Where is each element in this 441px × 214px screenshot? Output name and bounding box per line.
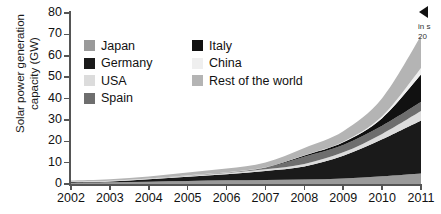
legend-label: Italy <box>209 39 232 53</box>
x-axis-tick <box>265 184 267 190</box>
legend-item-japan: Japan <box>84 39 192 53</box>
legend-label: Spain <box>101 91 133 105</box>
annotation-line-2: 20 <box>418 32 441 42</box>
cutoff-annotation: in s 20 <box>418 3 441 41</box>
legend-label: Germany <box>101 56 152 70</box>
y-axis-tick-label: 30 <box>2 112 62 126</box>
legend-label: China <box>209 56 242 70</box>
x-axis-tick <box>109 184 111 190</box>
y-axis-tick-label: 80 <box>2 5 62 19</box>
x-axis-line <box>69 184 422 186</box>
legend-item-rest-of-the-world: Rest of the world <box>192 74 303 88</box>
y-axis-tick-label: 20 <box>2 133 62 147</box>
y-axis-tick <box>64 98 70 100</box>
y-axis-tick <box>64 34 70 36</box>
y-axis-tick <box>64 183 70 185</box>
legend-swatch-icon <box>84 40 95 51</box>
legend-swatch-icon <box>192 40 203 51</box>
y-axis-tick <box>64 119 70 121</box>
y-axis-tick <box>64 162 70 164</box>
x-axis-tick <box>381 184 383 190</box>
legend-swatch-icon <box>84 75 95 86</box>
chart-legend: JapanItalyGermanyChinaUSARest of the wor… <box>84 37 303 107</box>
legend-item-germany: Germany <box>84 56 192 70</box>
legend-item-china: China <box>192 56 303 70</box>
legend-label: Rest of the world <box>209 74 303 88</box>
x-axis-tick <box>226 184 228 190</box>
y-axis-tick <box>64 76 70 78</box>
y-axis-tick <box>64 141 70 143</box>
x-axis-tick <box>148 184 150 190</box>
y-axis-tick-label: 70 <box>2 26 62 40</box>
annotation-line-1: in s <box>418 22 441 32</box>
legend-item-spain: Spain <box>84 91 192 105</box>
x-axis-tick <box>342 184 344 190</box>
y-axis-tick-label: 60 <box>2 48 62 62</box>
x-axis-tick <box>70 184 72 190</box>
y-axis-labels: 01020304050607080 <box>0 0 62 200</box>
legend-swatch-icon <box>192 75 203 86</box>
chart-figure: Solar power generation capacity (GW) 010… <box>0 0 441 214</box>
y-axis-tick-label: 40 <box>2 91 62 105</box>
x-axis-tick <box>304 184 306 190</box>
legend-swatch-icon <box>84 58 95 69</box>
y-axis-tick <box>64 55 70 57</box>
legend-swatch-icon <box>192 58 203 69</box>
y-axis-tick <box>64 12 70 14</box>
legend-label: Japan <box>101 39 135 53</box>
legend-label: USA <box>101 74 127 88</box>
legend-item-italy: Italy <box>192 39 303 53</box>
x-axis-tick <box>420 184 422 190</box>
y-axis-tick-label: 0 <box>2 176 62 190</box>
y-axis-tick-label: 10 <box>2 155 62 169</box>
legend-swatch-icon <box>84 93 95 104</box>
x-axis-tick <box>187 184 189 190</box>
legend-item-usa: USA <box>84 74 192 88</box>
x-axis-tick-label: 2011 <box>398 191 441 205</box>
y-axis-tick-label: 50 <box>2 69 62 83</box>
left-arrow-icon <box>419 6 428 18</box>
